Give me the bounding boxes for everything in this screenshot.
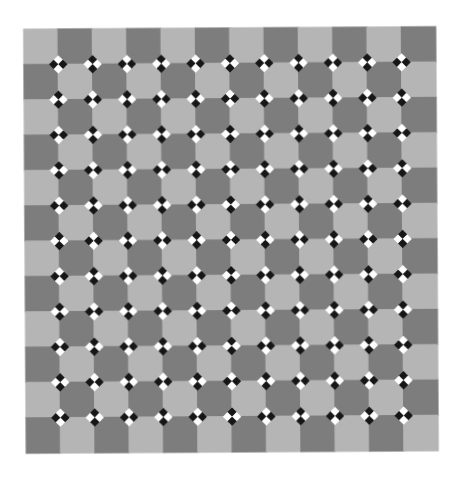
grid-cell — [25, 346, 61, 383]
illusion-figure: Dotted checkerboard scintillation illusi… — [0, 0, 461, 481]
grid-cell — [24, 205, 60, 242]
grid-cell — [264, 168, 300, 205]
grid-cell — [265, 310, 301, 347]
grid-cell — [265, 274, 301, 311]
grid-cell — [126, 28, 162, 65]
grid-cell — [230, 204, 266, 241]
grid-cell — [59, 276, 95, 313]
grid-cell — [94, 346, 130, 383]
grid-cell — [402, 273, 438, 310]
grid-cell — [161, 63, 197, 100]
grid-cell — [25, 276, 61, 313]
grid-cell — [230, 169, 266, 206]
grid-cell — [369, 415, 405, 452]
grid-cell — [367, 132, 403, 169]
grid-cell — [333, 97, 369, 134]
grid-cell — [300, 345, 336, 382]
grid-cell — [128, 416, 164, 453]
grid-cell — [368, 309, 404, 346]
grid-cell — [332, 27, 368, 64]
grid-cell — [366, 26, 402, 63]
grid-cell — [299, 203, 335, 240]
grid-cell — [127, 204, 163, 241]
grid-cell — [92, 134, 128, 171]
grid-cell — [93, 311, 129, 348]
grid-cell — [401, 61, 437, 98]
grid-cell — [401, 132, 437, 169]
grid-cell — [263, 27, 299, 64]
grid-cell — [197, 345, 233, 382]
grid-cell — [92, 63, 128, 100]
grid-cell — [230, 98, 266, 135]
grid-cell — [334, 345, 370, 382]
grid-cell — [300, 415, 336, 452]
grid-cell — [368, 344, 404, 381]
grid-cell — [163, 416, 199, 453]
grid-cell — [161, 98, 197, 135]
grid-cell — [58, 134, 94, 171]
grid-cell — [298, 97, 334, 134]
grid-cell — [299, 309, 335, 346]
grid-cell — [127, 98, 163, 135]
grid-cell — [127, 134, 163, 171]
grid-cell — [24, 99, 60, 136]
grid-cell — [402, 167, 438, 204]
grid-cell — [92, 28, 128, 65]
grid-cell — [59, 205, 95, 242]
grid-cell — [196, 239, 232, 276]
grid-cell — [59, 311, 95, 348]
grid-cell — [162, 275, 198, 312]
grid-cell — [264, 98, 300, 135]
grid-cell — [333, 168, 369, 205]
grid-cell — [127, 169, 163, 206]
grid-cell — [403, 415, 439, 452]
grid-cell — [127, 240, 163, 277]
grid-cell — [94, 417, 130, 454]
grid-cell — [367, 168, 403, 205]
grid-cell — [229, 27, 265, 64]
grid-cell — [401, 97, 437, 134]
grid-cell — [59, 346, 95, 383]
grid-cell — [230, 133, 266, 170]
grid-cell — [368, 274, 404, 311]
grid-cell — [195, 133, 231, 170]
grid-cell — [25, 311, 61, 348]
grid-cell — [163, 381, 199, 418]
grid-cell — [195, 63, 231, 100]
grid-cell — [403, 379, 439, 416]
grid-cell — [367, 203, 403, 240]
grid-cell — [333, 133, 369, 170]
grid-cell — [162, 240, 198, 277]
grid-cell — [197, 416, 233, 453]
illusion-canvas — [0, 0, 461, 481]
grid-cell — [93, 169, 129, 206]
grid-cell — [58, 170, 94, 207]
grid-cell — [334, 309, 370, 346]
grid-cell — [25, 417, 61, 454]
grid-cell — [24, 134, 60, 171]
grid-cell — [231, 345, 267, 382]
grid-cell — [334, 380, 370, 417]
grid-cell — [60, 417, 96, 454]
grid-cell — [162, 310, 198, 347]
grid-cell — [24, 170, 60, 207]
grid-cell — [128, 381, 164, 418]
grid-cell — [367, 97, 403, 134]
grid-cell — [23, 64, 59, 101]
grid-cell — [196, 275, 232, 312]
grid-cell — [231, 310, 267, 347]
grid-cell — [94, 381, 130, 418]
grid-cell — [231, 380, 267, 417]
grid-cell — [229, 63, 265, 100]
grid-cell — [161, 169, 197, 206]
grid-cell — [160, 28, 196, 65]
grid-cell — [299, 168, 335, 205]
grid-cell — [300, 380, 336, 417]
grid-cell — [162, 204, 198, 241]
grid-cell — [23, 28, 59, 65]
grid-cell — [264, 133, 300, 170]
grid-cell — [264, 62, 300, 99]
grid-cell — [92, 99, 128, 136]
grid-cell — [128, 310, 164, 347]
grid-cell — [59, 240, 95, 277]
